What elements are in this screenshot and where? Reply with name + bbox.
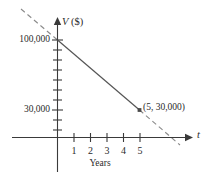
depreciation-graph-figure: V ($) 100,000 30,000 1 2 3 4 5 Years t (… [0, 0, 215, 175]
y-tick-label-30000: 30,000 [3, 105, 50, 115]
y-axis-label-units: ($) [71, 16, 83, 27]
x-tick-label-4: 4 [117, 146, 131, 156]
x-tick-label-1: 1 [67, 146, 81, 156]
x-tick-label-3: 3 [100, 146, 114, 156]
depreciation-line [58, 40, 140, 110]
dashed-extension-lower-right [140, 110, 181, 145]
y-axis-arrowhead [54, 17, 61, 25]
x-tick-label-2: 2 [84, 146, 98, 156]
x-tick-label-5: 5 [133, 146, 147, 156]
data-point-annotation: (5, 30,000) [143, 103, 185, 113]
y-tick-label-100000: 100,000 [3, 35, 50, 45]
y-axis-label: V ($) [62, 17, 83, 28]
x-axis-caption-years: Years [78, 159, 122, 169]
x-axis-label-t: t [197, 130, 200, 141]
data-point-marker [138, 108, 142, 112]
x-axis-arrowhead [185, 134, 193, 141]
